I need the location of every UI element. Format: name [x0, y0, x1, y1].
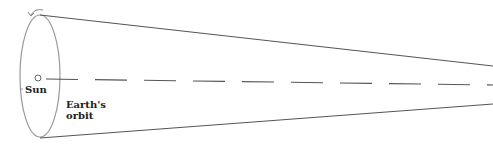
earth-orbit-label-line1: Earth's	[66, 99, 106, 110]
sun-marker	[35, 75, 41, 81]
orbit-cylinder-diagram: Sun Earth's orbit	[0, 0, 493, 148]
diagram-graphic	[0, 0, 493, 148]
sun-dot	[21, 88, 23, 90]
sun-label: Sun	[25, 84, 47, 95]
axis-dashed-line	[46, 79, 493, 85]
earth-orbit-label-line2: orbit	[66, 110, 93, 121]
cylinder-top-edge	[40, 15, 493, 66]
cylinder-bottom-edge	[40, 104, 493, 138]
